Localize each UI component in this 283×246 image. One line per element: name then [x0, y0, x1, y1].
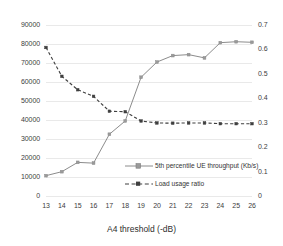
chart-container: 0100002000030000400005000060000700008000… — [0, 0, 283, 246]
data-point-marker — [203, 56, 206, 59]
data-point-marker — [203, 122, 206, 125]
legend-label-throughput: 5th percentile UE throughput (Kb/s) — [155, 162, 258, 169]
data-point-marker — [251, 122, 254, 125]
data-point-marker — [124, 110, 127, 113]
data-point-marker — [76, 88, 79, 91]
data-point-marker — [156, 61, 159, 64]
legend-line-throughput-icon — [125, 162, 153, 170]
data-point-marker — [140, 76, 143, 79]
data-point-marker — [156, 122, 159, 125]
data-point-marker — [251, 41, 254, 44]
legend-label-load-ratio: Load usage ratio — [155, 180, 204, 187]
data-point-marker — [124, 120, 127, 123]
data-point-marker — [92, 162, 95, 165]
data-point-marker — [187, 122, 190, 125]
data-point-marker — [60, 170, 63, 173]
data-point-marker — [108, 133, 111, 136]
data-point-marker — [219, 41, 222, 44]
data-point-marker — [171, 122, 174, 125]
data-point-marker — [235, 122, 238, 125]
legend-line-load-ratio-icon — [125, 180, 153, 188]
data-point-marker — [219, 122, 222, 125]
series-line-0 — [46, 42, 252, 176]
data-point-marker — [187, 53, 190, 56]
data-point-marker — [45, 174, 48, 177]
data-point-marker — [235, 40, 238, 43]
plot-area — [0, 0, 283, 246]
data-point-marker — [61, 75, 64, 78]
data-point-marker — [92, 95, 95, 98]
x-axis-title: A4 threshold (-dB) — [0, 224, 283, 234]
data-point-marker — [171, 54, 174, 57]
data-point-marker — [108, 110, 111, 113]
data-point-marker — [45, 46, 48, 49]
series-line-1 — [46, 47, 252, 123]
data-point-marker — [140, 120, 143, 123]
data-point-marker — [76, 161, 79, 164]
